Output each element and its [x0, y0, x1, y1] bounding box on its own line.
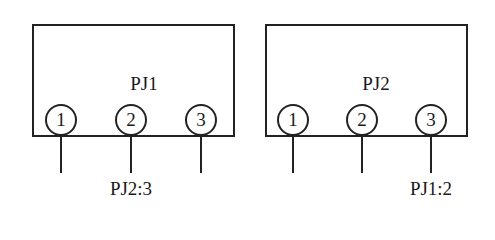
wire-label-pin-3: PJ1:2	[410, 178, 452, 200]
pin-2-wire	[361, 136, 363, 173]
pin-3-circle: 3	[185, 104, 217, 136]
pin-1-circle: 1	[277, 104, 309, 136]
pin-2-circle: 2	[346, 104, 378, 136]
pin-2-circle: 2	[115, 104, 147, 136]
connector-pj1: PJ1 1 2 3 PJ2:3	[32, 24, 235, 137]
pin-1-wire	[60, 136, 62, 173]
connector-pj2: PJ2 1 2 3 PJ1:2	[265, 24, 468, 137]
connector-label: PJ2	[362, 73, 389, 95]
pin-1-wire	[292, 136, 294, 173]
pin-2-wire	[130, 136, 132, 173]
pin-3-circle: 3	[415, 104, 447, 136]
connector-label: PJ1	[130, 73, 157, 95]
wire-label-pin-2: PJ2:3	[110, 178, 152, 200]
pin-3-wire	[200, 136, 202, 173]
pin-1-circle: 1	[45, 104, 77, 136]
pin-3-wire	[430, 136, 432, 173]
